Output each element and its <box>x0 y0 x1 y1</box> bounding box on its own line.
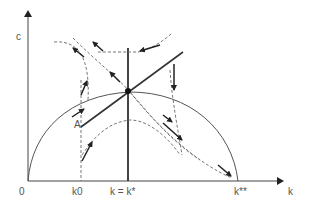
tick-label-kstar: k = k* <box>110 186 135 197</box>
axes <box>24 10 284 185</box>
tick-label-kstarstar: k** <box>234 186 247 197</box>
x-axis-arrow-icon <box>277 177 284 185</box>
phase-diagram: c k 0 k0 k = k* k** A <box>0 0 322 209</box>
y-axis-arrow-icon <box>24 10 32 17</box>
y-axis-label: c <box>16 31 21 42</box>
tick-label-k0: k0 <box>72 186 83 197</box>
x-axis-label: k <box>288 186 294 197</box>
steady-state-point <box>125 88 131 94</box>
saddle-path <box>81 52 183 127</box>
k-nullcline-curve <box>28 92 238 181</box>
direction-arrows <box>72 42 231 176</box>
origin-label: 0 <box>19 186 25 197</box>
point-label-a: A <box>74 119 81 130</box>
